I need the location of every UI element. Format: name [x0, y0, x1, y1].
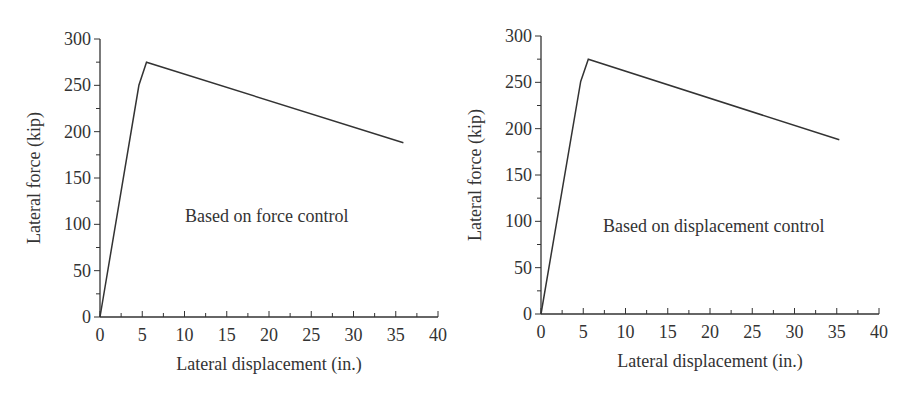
x-tick-label: 35	[387, 325, 405, 345]
x-tick-label: 25	[743, 322, 761, 342]
y-tick-label: 300	[505, 26, 532, 46]
y-tick-label: 0	[82, 307, 91, 327]
y-tick-label: 250	[505, 72, 532, 92]
chart-annotation: Based on force control	[185, 206, 348, 226]
x-tick-label: 30	[345, 325, 363, 345]
x-axis-title: Lateral displacement (in.)	[617, 351, 802, 372]
x-tick-label: 5	[579, 322, 588, 342]
x-tick-label: 40	[870, 322, 888, 342]
x-tick-label: 20	[260, 325, 278, 345]
y-tick-label: 150	[505, 165, 532, 185]
x-tick-label: 25	[302, 325, 320, 345]
chart-displacement-control: 0510152025303540050100150200250300Latera…	[441, 0, 898, 406]
chart-plot-force-control: 0510152025303540050100150200250300Latera…	[0, 0, 457, 406]
x-tick-label: 5	[138, 325, 147, 345]
y-tick-label: 300	[64, 29, 91, 49]
x-tick-label: 35	[828, 322, 846, 342]
y-tick-label: 200	[505, 119, 532, 139]
series-line	[541, 59, 839, 314]
x-tick-label: 15	[659, 322, 677, 342]
x-axis-title: Lateral displacement (in.)	[176, 354, 361, 375]
x-tick-label: 0	[96, 325, 105, 345]
y-axis-title: Lateral force (kip)	[24, 112, 45, 244]
y-tick-label: 100	[64, 214, 91, 234]
y-tick-label: 0	[523, 304, 532, 324]
x-tick-label: 10	[176, 325, 194, 345]
x-tick-label: 20	[701, 322, 719, 342]
y-tick-label: 50	[514, 258, 532, 278]
y-tick-label: 200	[64, 122, 91, 142]
y-tick-label: 250	[64, 75, 91, 95]
y-tick-label: 100	[505, 211, 532, 231]
x-tick-label: 30	[786, 322, 804, 342]
y-tick-label: 50	[73, 261, 91, 281]
chart-annotation: Based on displacement control	[603, 216, 824, 236]
x-tick-label: 0	[537, 322, 546, 342]
x-tick-label: 10	[617, 322, 635, 342]
y-axis-title: Lateral force (kip)	[465, 109, 486, 241]
y-tick-label: 150	[64, 168, 91, 188]
chart-plot-displacement-control: 0510152025303540050100150200250300Latera…	[441, 0, 898, 406]
x-tick-label: 15	[218, 325, 236, 345]
chart-force-control: 0510152025303540050100150200250300Latera…	[0, 0, 457, 406]
series-line	[100, 62, 403, 317]
